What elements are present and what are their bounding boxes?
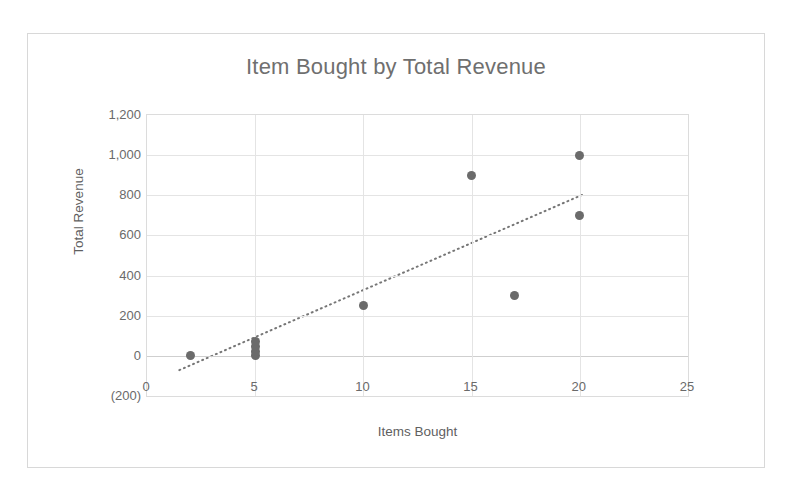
y-axis-tick-label: 0	[79, 347, 141, 362]
y-axis-tick-label: 1,000	[79, 147, 141, 162]
x-axis-tick-label: 10	[355, 379, 369, 394]
data-point[interactable]	[467, 171, 476, 180]
x-axis-tick-label: 15	[463, 379, 477, 394]
horizontal-gridline	[147, 235, 688, 236]
data-point[interactable]	[359, 301, 368, 310]
y-axis-tick-label: 1,200	[79, 107, 141, 122]
y-axis-tick-label: 800	[79, 187, 141, 202]
x-axis-tick-label: 25	[680, 379, 694, 394]
chart-title: Item Bought by Total Revenue	[28, 54, 764, 80]
horizontal-gridline	[147, 316, 688, 317]
data-point[interactable]	[186, 351, 195, 360]
vertical-gridline	[472, 115, 473, 396]
chart-frame: Item Bought by Total Revenue (200)020040…	[27, 33, 765, 468]
y-axis-tick-label: 600	[79, 227, 141, 242]
y-axis-title: Total Revenue	[71, 142, 86, 282]
trendline	[147, 115, 688, 396]
data-point[interactable]	[510, 291, 519, 300]
data-point[interactable]	[575, 151, 584, 160]
y-axis-tick-label: 400	[79, 267, 141, 282]
y-axis-tick-label: 200	[79, 307, 141, 322]
data-point[interactable]	[575, 211, 584, 220]
x-axis-tick-label: 5	[251, 379, 258, 394]
horizontal-gridline	[147, 155, 688, 156]
horizontal-gridline	[147, 276, 688, 277]
data-point[interactable]	[251, 337, 260, 346]
x-axis-tick-label: 0	[142, 379, 149, 394]
horizontal-gridline	[147, 195, 688, 196]
x-axis-tick-label: 20	[572, 379, 586, 394]
y-axis-tick-label: (200)	[79, 388, 141, 403]
plot-area	[146, 114, 689, 397]
x-axis-tick-labels: 0510152025	[146, 379, 689, 399]
zero-gridline	[147, 356, 688, 357]
vertical-gridline	[363, 115, 364, 396]
x-axis-title: Items Bought	[146, 424, 689, 439]
